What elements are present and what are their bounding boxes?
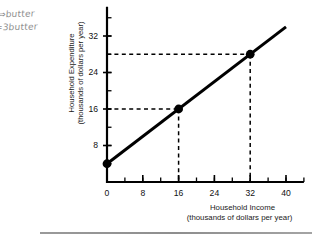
x-tick-label-32: 32 [242, 188, 258, 198]
plot-area [0, 0, 329, 245]
data-point-c[interactable] [246, 50, 255, 59]
x-tick-label-24: 24 [206, 188, 222, 198]
figure-container: ⇒butter =3butter Household Expenditure (… [0, 0, 329, 245]
y-tick-label-16: 16 [82, 104, 98, 114]
data-point-a[interactable] [103, 159, 112, 168]
x-tick-label-40: 40 [278, 188, 294, 198]
bottom-divider-rule [40, 232, 312, 234]
x-tick-label-8: 8 [135, 188, 151, 198]
data-point-b[interactable] [174, 105, 183, 114]
y-tick-label-8: 8 [82, 140, 98, 150]
y-tick-label-24: 24 [82, 67, 98, 77]
x-tick-label-16: 16 [171, 188, 187, 198]
x-tick-label-0: 0 [99, 188, 115, 198]
y-tick-label-32: 32 [82, 31, 98, 41]
expenditure-line [107, 27, 286, 164]
